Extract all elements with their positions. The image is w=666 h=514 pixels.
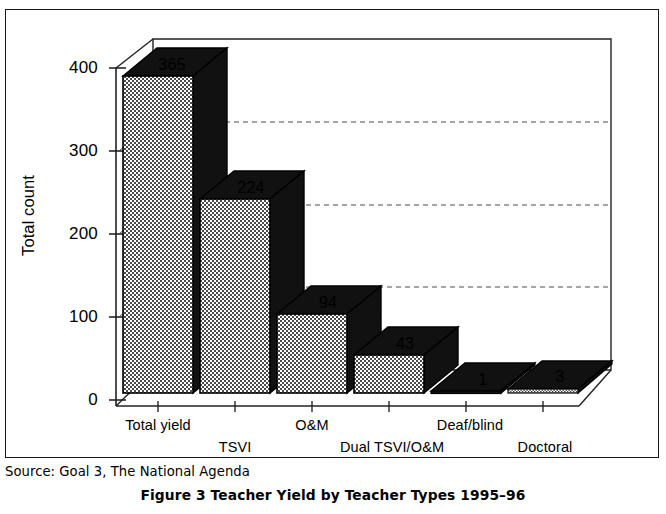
bar-front-face — [123, 76, 193, 393]
bar-value-total-yield: 365 — [158, 56, 185, 74]
bar-value-deaf-blind: 1 — [478, 371, 487, 389]
figure-caption: Figure 3 Teacher Yield by Teacher Types … — [0, 487, 666, 503]
bar-value-dual-tsvi-om: 43 — [396, 335, 414, 353]
x-tick-label-deaf-blind: Deaf/blind — [437, 417, 503, 433]
bar-front-face — [200, 199, 270, 393]
y-tick-label-400: 400 — [42, 58, 98, 78]
source-note: Source: Goal 3, The National Agenda — [5, 464, 250, 479]
bar-value-tsvi: 224 — [237, 179, 264, 197]
x-tick-label-om: O&M — [295, 417, 328, 433]
y-tick-label-100: 100 — [42, 307, 98, 327]
bar-front-face — [431, 391, 501, 394]
bar-value-om: 94 — [319, 294, 337, 312]
y-tick-label-200: 200 — [42, 224, 98, 244]
bar-chart-plot — [6, 10, 657, 456]
y-tick-label-300: 300 — [42, 141, 98, 161]
figure-frame: Total count — [5, 9, 659, 458]
bar-front-face — [277, 314, 347, 393]
y-tick-label-0: 0 — [42, 390, 98, 410]
x-tick-label-tsvi: TSVI — [219, 439, 252, 455]
x-tick-label-doctoral: Doctoral — [518, 439, 573, 455]
bar-front-face — [354, 355, 424, 393]
bar-value-doctoral: 3 — [555, 368, 564, 386]
bar-front-face — [508, 389, 578, 393]
x-tick-label-dual-tsvi-om: Dual TSVI/O&M — [340, 439, 444, 455]
x-tick-label-total-yield: Total yield — [125, 417, 191, 433]
